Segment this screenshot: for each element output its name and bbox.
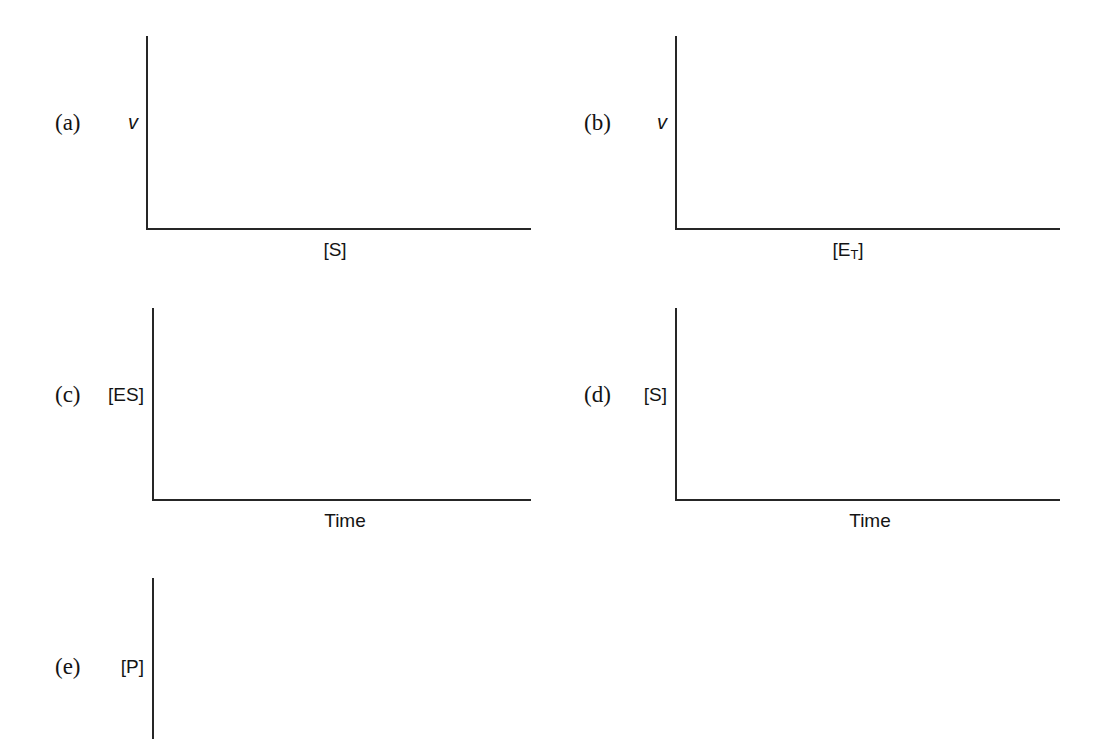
panel-b-y-axis [675,36,677,230]
panel-c-x-label: Time [324,511,366,530]
panel-b-x-label: [ET] [832,240,863,262]
panel-a-tag: (a) [55,111,81,134]
panel-a-x-axis [146,228,531,230]
panel-b-x-axis [675,228,1060,230]
panel-d-tag: (d) [584,383,611,406]
panel-c-y-label: [ES] [86,385,144,404]
panel-d-x-label: Time [849,511,891,530]
panel-c-x-axis [152,499,531,501]
panel-e-tag: (e) [55,655,81,678]
panel-d-x-axis [675,499,1060,501]
panel-a-y-axis [146,36,148,230]
panel-a-x-label: [S] [323,240,346,259]
panel-d-y-label: [S] [615,385,667,404]
panel-b-x-label-tail: ] [858,239,863,260]
panel-b-x-label-subscript: T [850,247,858,262]
figure-canvas: (a) v [S] (b) v [ET] (c) [ES] Time (d) [… [0,0,1115,739]
panel-b-tag: (b) [584,111,611,134]
panel-c-y-axis [152,308,154,501]
panel-d-y-axis [675,308,677,501]
panel-a-y-label: v [112,112,138,132]
panel-c-tag: (c) [55,383,81,406]
panel-b-x-label-main: [E [832,239,850,260]
panel-b-y-label: v [641,112,667,132]
panel-e-y-label: [P] [96,657,144,676]
panel-e-y-axis [152,578,154,739]
